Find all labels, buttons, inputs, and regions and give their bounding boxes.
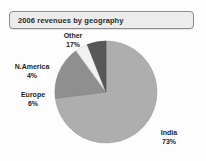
pie-label-other: Other 17%: [56, 31, 90, 49]
pie-chart-graphic: [52, 38, 160, 146]
pie-slices: [55, 41, 157, 143]
pie-chart-figure: 2006 revenues by geography Other 17% N.A…: [0, 0, 206, 161]
pie-label-india: India 73%: [152, 128, 186, 146]
pie-label-namerica: N.America 4%: [5, 62, 59, 80]
chart-title-box: 2006 revenues by geography: [9, 11, 194, 29]
pie-label-europe-percent: 6%: [9, 99, 57, 108]
pie-label-other-name: Other: [64, 32, 83, 39]
pie-label-europe-name: Europe: [21, 91, 45, 98]
pie-label-namerica-name: N.America: [15, 63, 50, 70]
chart-title: 2006 revenues by geography: [10, 16, 124, 25]
pie-label-namerica-percent: 4%: [5, 71, 59, 80]
pie-label-other-percent: 17%: [56, 40, 90, 49]
pie-label-europe: Europe 6%: [9, 90, 57, 108]
pie-label-india-name: India: [161, 129, 177, 136]
pie-label-india-percent: 73%: [152, 137, 186, 146]
